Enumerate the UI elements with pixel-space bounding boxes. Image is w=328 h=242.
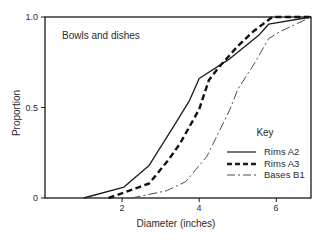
x-axis-label: Diameter (inches) bbox=[96, 218, 256, 229]
dashed-line-swatch-icon bbox=[227, 161, 256, 167]
x-tick-label-4: 4 bbox=[189, 203, 209, 213]
y-tick-label-0.5: 0.5 bbox=[10, 103, 38, 113]
dashdot-line-swatch-icon bbox=[227, 172, 256, 178]
x-tick-label-6: 6 bbox=[266, 203, 286, 213]
y-axis-label: Proportion bbox=[11, 90, 22, 136]
legend-entry-rims-a2: Rims A2 bbox=[227, 146, 299, 158]
solid-line-swatch-icon bbox=[227, 149, 256, 155]
legend-entry-bases-b1: Bases B1 bbox=[227, 169, 305, 181]
cumulative-proportion-chart: Bowls and dishes Proportion Diameter (in… bbox=[0, 0, 328, 242]
y-tick-label-1.0: 1.0 bbox=[10, 12, 38, 22]
plot-annotation: Bowls and dishes bbox=[62, 30, 140, 41]
legend-label: Bases B1 bbox=[264, 169, 305, 181]
legend-label: Rims A2 bbox=[264, 146, 299, 158]
legend-title: Key bbox=[235, 127, 295, 138]
y-tick-label-0: 0 bbox=[10, 193, 38, 203]
x-tick-label-2: 2 bbox=[112, 203, 132, 213]
